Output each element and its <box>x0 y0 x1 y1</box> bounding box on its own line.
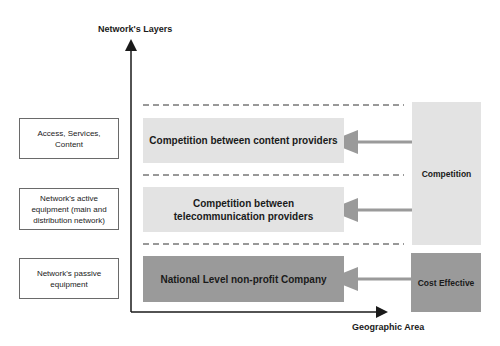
side-cost-effective: Cost Effective <box>411 253 481 312</box>
side-competition: Competition <box>412 102 481 245</box>
layer-active-equipment: Network's active equipment (main and dis… <box>19 188 119 230</box>
layer-passive-equipment: Network's passive equipment <box>19 258 119 299</box>
x-axis-label: Geographic Area <box>352 322 424 332</box>
block-content-competition: Competition between content providers <box>143 118 344 163</box>
y-axis-label: Network's Layers <box>98 24 172 34</box>
block-national-company: National Level non-profit Company <box>143 256 344 302</box>
layer-access-services-content: Access, Services, Content <box>19 118 119 159</box>
block-telecom-competition: Competition between telecommunication pr… <box>143 187 344 232</box>
